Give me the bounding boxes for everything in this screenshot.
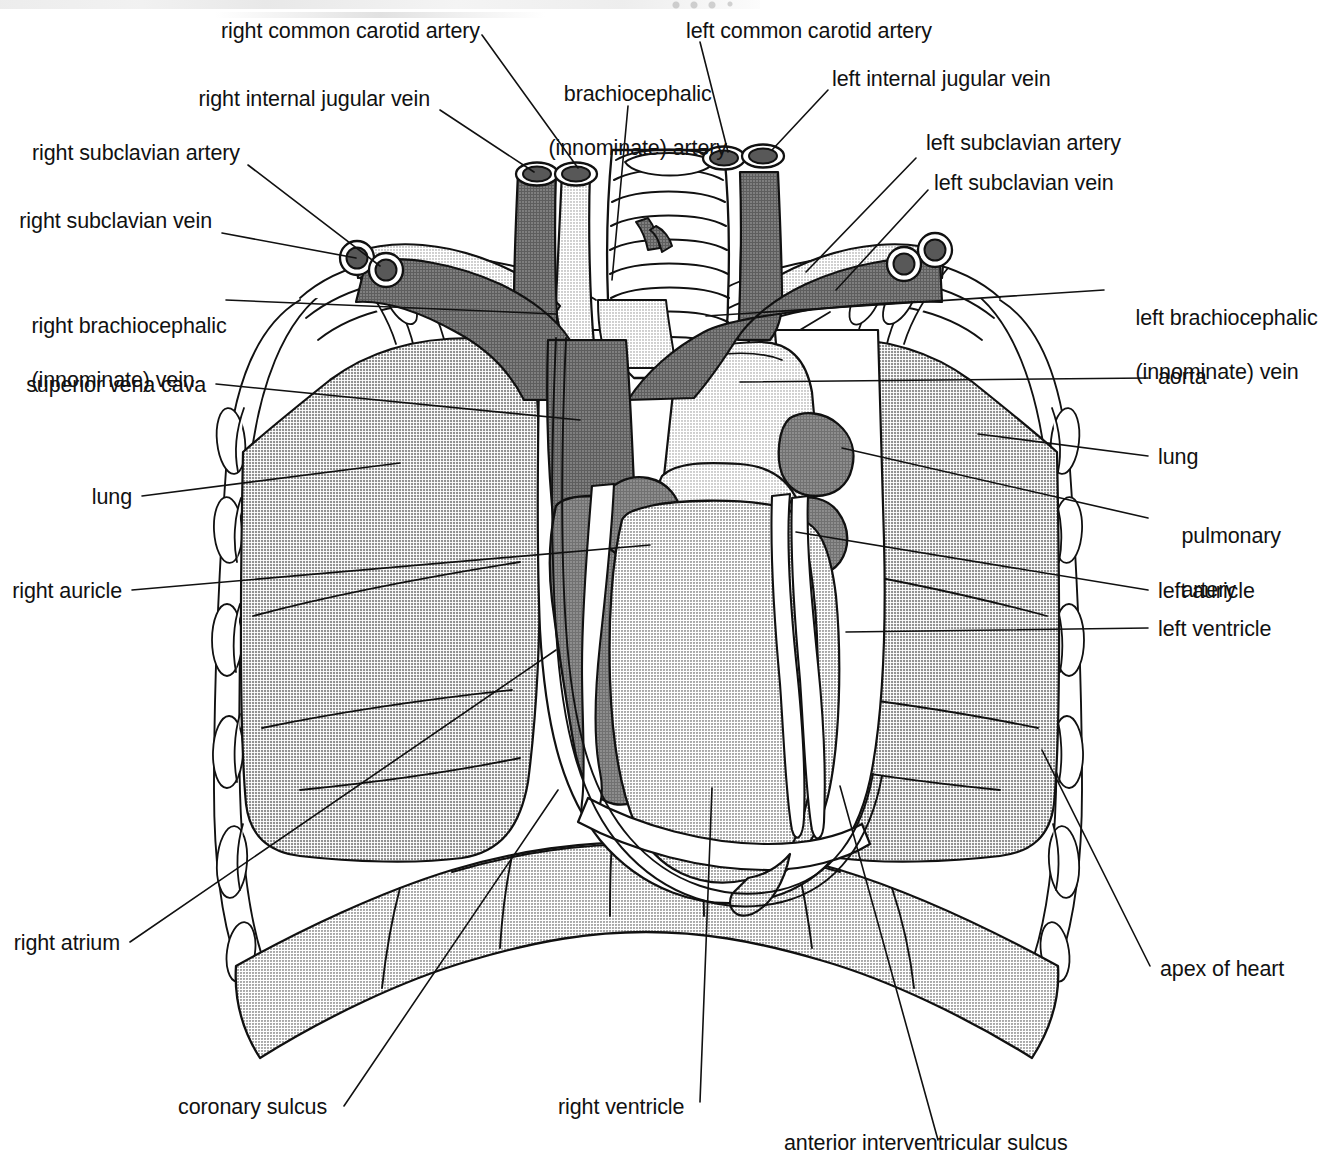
leader-right-subclavian-vein <box>222 233 356 258</box>
label-right-brachiocephalic-vein: right brachiocephalic (innominate) vein <box>8 286 228 421</box>
label-left-ventricle: left ventricle <box>1158 616 1308 643</box>
label-pulmonary-artery-line1: pulmonary <box>1182 524 1281 548</box>
label-right-ventricle: right ventricle <box>558 1094 758 1121</box>
right-common-carotid-artery-vessel <box>556 172 594 344</box>
label-left-brachiocephalic-vein-line1: left brachiocephalic <box>1136 306 1318 330</box>
label-lung-right-side: lung <box>1158 444 1288 471</box>
label-right-subclavian-vein: right subclavian vein <box>0 208 212 235</box>
label-right-atrium: right atrium <box>0 930 120 957</box>
label-coronary-sulcus: coronary sulcus <box>178 1094 378 1121</box>
label-superior-vena-cava: superior vena cava <box>0 372 206 399</box>
label-apex-of-heart: apex of heart <box>1160 956 1310 983</box>
label-brachiocephalic-artery-line1: brachiocephalic <box>564 82 712 106</box>
label-left-common-carotid-artery: left common carotid artery <box>686 18 986 45</box>
label-brachiocephalic-artery-line2: (innominate) artery <box>548 136 727 160</box>
label-left-auricle: left auricle <box>1158 578 1298 605</box>
label-right-brachiocephalic-vein-line1: right brachiocephalic <box>32 314 227 338</box>
label-pulmonary-artery: pulmonary artery <box>1158 496 1292 631</box>
label-left-internal-jugular-vein: left internal jugular vein <box>832 66 1132 93</box>
label-right-internal-jugular-vein: right internal jugular vein <box>150 86 430 113</box>
label-lung-left-side: lung <box>0 484 132 511</box>
label-left-brachiocephalic-vein: left brachiocephalic (innominate) vein <box>1112 278 1312 413</box>
label-right-auricle: right auricle <box>0 578 122 605</box>
label-right-common-carotid-artery: right common carotid artery <box>180 18 480 45</box>
label-aorta: aorta <box>1158 364 1288 391</box>
label-left-subclavian-vein: left subclavian vein <box>934 170 1184 197</box>
label-left-subclavian-artery: left subclavian artery <box>926 130 1186 157</box>
leader-left-internal-jugular <box>772 90 828 150</box>
label-brachiocephalic-artery: brachiocephalic (innominate) artery <box>516 54 736 189</box>
right-lung-shape <box>241 338 540 862</box>
label-right-subclavian-artery: right subclavian artery <box>0 140 240 167</box>
label-anterior-interventricular-sulcus: anterior interventricular sulcus <box>784 1130 1204 1157</box>
